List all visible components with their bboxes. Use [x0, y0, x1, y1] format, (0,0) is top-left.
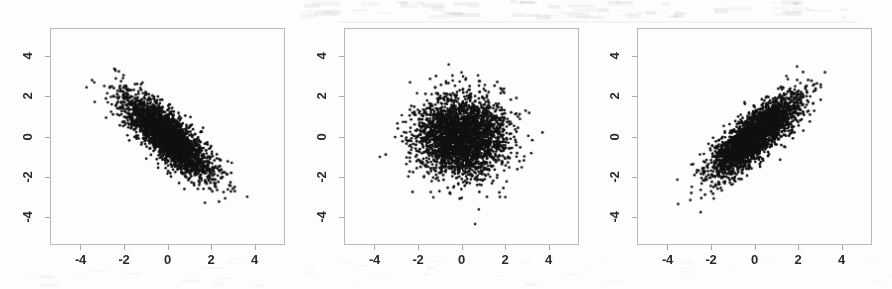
- plot-frame-1: [50, 28, 285, 245]
- y-tick-label: -4: [607, 204, 625, 230]
- x-tick-label: -4: [652, 252, 682, 267]
- y-tick-mark: [632, 217, 637, 218]
- y-tick-label: 2: [607, 83, 625, 109]
- y-tick-label: 0: [314, 124, 332, 150]
- figure-scatterplot-triptych: { "figure": { "panel_count": 3, "point_c…: [0, 0, 892, 289]
- y-tick-label: -2: [607, 164, 625, 190]
- y-tick-label: 4: [314, 43, 332, 69]
- x-tick-label: 4: [534, 252, 564, 267]
- y-tick-label: 0: [607, 124, 625, 150]
- x-tick-label: 4: [240, 252, 270, 267]
- x-tick-label: 0: [153, 252, 183, 267]
- scatter-panel-2: -4-4-2-2002244: [294, 0, 591, 289]
- y-tick-mark: [339, 56, 344, 57]
- y-tick-label: 2: [314, 83, 332, 109]
- x-tick-mark: [549, 245, 550, 250]
- y-tick-mark: [45, 217, 50, 218]
- y-tick-mark: [45, 96, 50, 97]
- y-tick-label: 4: [607, 43, 625, 69]
- y-tick-mark: [45, 137, 50, 138]
- x-tick-mark: [168, 245, 169, 250]
- y-tick-mark: [339, 137, 344, 138]
- y-tick-mark: [632, 96, 637, 97]
- x-tick-label: -2: [109, 252, 139, 267]
- x-tick-mark: [374, 245, 375, 250]
- y-tick-mark: [45, 177, 50, 178]
- x-tick-mark: [124, 245, 125, 250]
- y-tick-label: 0: [20, 124, 38, 150]
- x-tick-mark: [211, 245, 212, 250]
- y-tick-label: 4: [20, 43, 38, 69]
- x-tick-label: 2: [196, 252, 226, 267]
- plot-frame-2: [344, 28, 579, 245]
- x-tick-label: -2: [403, 252, 433, 267]
- y-tick-label: -2: [314, 164, 332, 190]
- y-tick-label: -2: [20, 164, 38, 190]
- y-tick-mark: [339, 177, 344, 178]
- x-tick-mark: [755, 245, 756, 250]
- y-tick-mark: [339, 96, 344, 97]
- scatter-points-3: [638, 29, 871, 244]
- x-tick-mark: [505, 245, 506, 250]
- y-tick-mark: [339, 217, 344, 218]
- scatter-panel-1: -4-4-2-2002244: [0, 0, 297, 289]
- y-tick-label: 2: [20, 83, 38, 109]
- x-tick-label: 4: [827, 252, 857, 267]
- x-tick-mark: [255, 245, 256, 250]
- x-tick-mark: [80, 245, 81, 250]
- x-tick-label: 0: [447, 252, 477, 267]
- x-tick-mark: [462, 245, 463, 250]
- x-tick-mark: [842, 245, 843, 250]
- x-tick-mark: [798, 245, 799, 250]
- x-tick-label: -4: [359, 252, 389, 267]
- y-tick-mark: [632, 137, 637, 138]
- x-tick-label: 0: [740, 252, 770, 267]
- scatter-points-2: [345, 29, 578, 244]
- y-tick-mark: [632, 177, 637, 178]
- x-tick-label: -4: [65, 252, 95, 267]
- y-tick-mark: [632, 56, 637, 57]
- y-tick-mark: [45, 56, 50, 57]
- x-tick-mark: [418, 245, 419, 250]
- scatter-points-1: [51, 29, 284, 244]
- x-tick-mark: [667, 245, 668, 250]
- x-tick-label: 2: [783, 252, 813, 267]
- x-tick-label: -2: [696, 252, 726, 267]
- y-tick-label: -4: [20, 204, 38, 230]
- plot-frame-3: [637, 28, 872, 245]
- x-tick-mark: [711, 245, 712, 250]
- x-tick-label: 2: [490, 252, 520, 267]
- y-tick-label: -4: [314, 204, 332, 230]
- scatter-panel-3: -4-4-2-2002244: [587, 0, 884, 289]
